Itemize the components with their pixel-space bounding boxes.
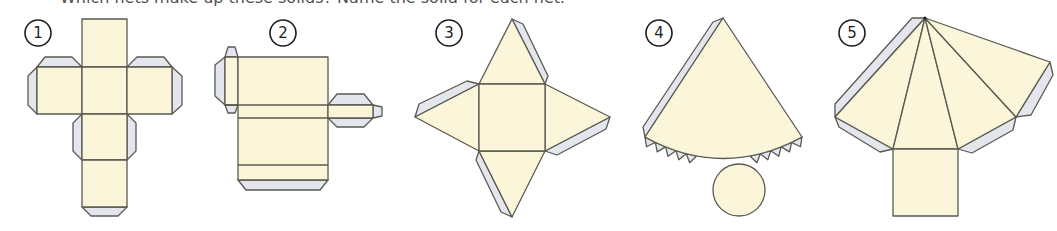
net-1-number-badge: 1 — [25, 20, 51, 46]
net-1-face-right — [127, 67, 172, 114]
net-2-flap-left-bottom — [225, 105, 238, 113]
net-3-number-badge: 3 — [436, 20, 462, 46]
svg-text:5: 5 — [847, 24, 857, 42]
net-1-flap-right-top — [127, 57, 172, 67]
svg-text:4: 4 — [654, 24, 664, 42]
net-2-face-right-end — [328, 105, 373, 118]
net-1-face-left — [37, 67, 82, 114]
net-1-flap-left-top — [37, 57, 82, 67]
svg-text:2: 2 — [278, 24, 288, 42]
net-1-face-center — [82, 67, 127, 114]
net-3-square-pyramid: 3 — [415, 19, 610, 217]
net-3-face-square-base — [479, 84, 545, 151]
svg-text:1: 1 — [33, 24, 43, 42]
net-1-flap-bottom — [82, 207, 127, 216]
net-1-cube: 1 — [25, 19, 182, 216]
net-5-number-badge: 5 — [839, 20, 865, 46]
net-2-flap-right-bottom — [328, 118, 373, 127]
net-4-face-circle-base — [713, 164, 765, 216]
net-2-flap-right-top — [328, 94, 373, 105]
nets-figure: 1 2 — [0, 0, 1057, 231]
net-2-flap-right-end — [373, 105, 382, 118]
net-1-face-lower — [82, 114, 127, 160]
net-4-number-badge: 4 — [646, 20, 672, 46]
net-2-flap-left-side — [215, 57, 225, 105]
net-2-number-badge: 2 — [270, 20, 296, 46]
net-1-face-top — [82, 19, 127, 67]
net-2-flap-bottom — [238, 180, 328, 190]
net-1-flap-lower-right — [127, 114, 136, 160]
net-1-face-bottom — [82, 160, 127, 207]
net-1-flap-left-side — [28, 67, 37, 114]
net-5-face-square-base — [893, 149, 958, 216]
net-1-flap-lower-left — [73, 114, 82, 160]
net-2-cuboid: 2 — [215, 20, 382, 190]
net-5-pyramid-fan: 5 — [835, 16, 1053, 216]
net-1-flap-right-side — [172, 67, 182, 114]
net-2-face-left-end — [225, 57, 238, 105]
net-2-flap-left-top — [225, 47, 238, 57]
net-5-apex-point — [923, 16, 926, 19]
net-4-cone: 4 — [643, 18, 802, 216]
svg-text:3: 3 — [444, 24, 454, 42]
